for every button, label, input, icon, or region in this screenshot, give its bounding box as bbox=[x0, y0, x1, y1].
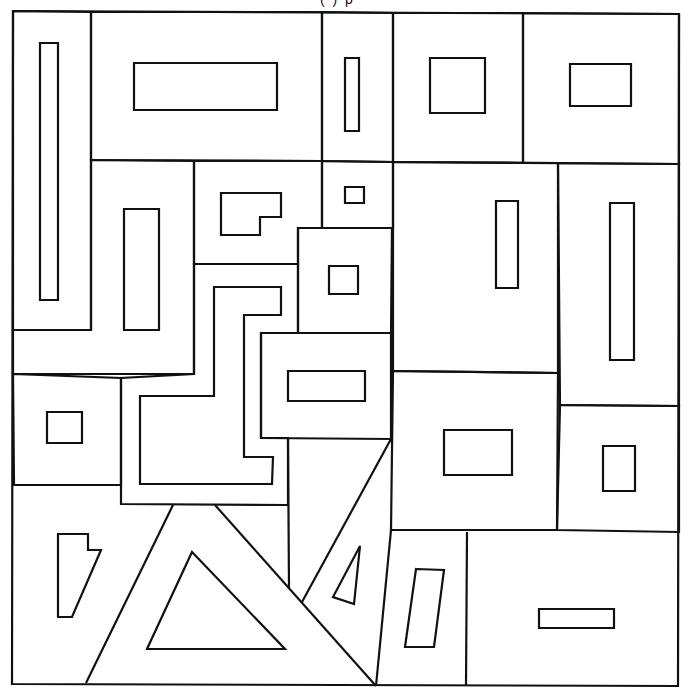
s-path-cell bbox=[121, 264, 298, 505]
s-path-inner bbox=[140, 287, 281, 484]
mid-bar-rect bbox=[288, 371, 365, 401]
mid-bar-cell bbox=[261, 333, 391, 439]
tall-right-cell bbox=[558, 163, 679, 406]
l-room-cell bbox=[194, 161, 322, 264]
tall-thin-rect bbox=[40, 43, 58, 300]
right-rect bbox=[570, 64, 631, 106]
top-wide-cell bbox=[91, 12, 322, 161]
top-right-cell bbox=[523, 13, 679, 164]
shape-drawing bbox=[0, 0, 691, 697]
center-square-cell bbox=[391, 371, 558, 530]
tiny-square bbox=[345, 187, 364, 203]
center-rect bbox=[444, 430, 512, 475]
narrow-rect bbox=[345, 58, 359, 131]
tiny-square-cell bbox=[322, 161, 393, 228]
tall-right-rect bbox=[610, 203, 634, 360]
big-triangle-right-edge bbox=[215, 505, 376, 686]
right-small-rect-cell bbox=[557, 405, 679, 532]
bottom-bar-rect bbox=[539, 609, 614, 628]
tilted-rect bbox=[405, 569, 444, 647]
big-triangle-left-edge bbox=[86, 505, 173, 683]
right-u-cell bbox=[393, 162, 558, 373]
u-inner-rect bbox=[496, 201, 518, 288]
left-tall-rect bbox=[124, 209, 159, 330]
inner-shapes-layer bbox=[40, 43, 635, 649]
wide-rect bbox=[134, 63, 277, 110]
tall-left-cell bbox=[13, 11, 91, 330]
small-triangle-left-edge bbox=[302, 439, 391, 602]
inner-small-triangle bbox=[333, 546, 360, 604]
vertical-288 bbox=[288, 438, 289, 589]
small-square-cell bbox=[298, 228, 392, 333]
left-small-square bbox=[47, 412, 82, 443]
notched-quad bbox=[58, 534, 101, 617]
square-rect bbox=[430, 58, 485, 113]
inner-big-triangle bbox=[147, 552, 285, 649]
top-square-cell bbox=[393, 13, 523, 163]
lower-right-vertical bbox=[466, 532, 467, 685]
left-small-square-cell bbox=[13, 374, 121, 485]
top-narrow-cell bbox=[322, 12, 393, 162]
l-shape bbox=[221, 193, 281, 235]
right-small-rect bbox=[603, 446, 635, 491]
lower-slanted-vertical bbox=[376, 530, 391, 686]
small-square bbox=[329, 266, 358, 294]
